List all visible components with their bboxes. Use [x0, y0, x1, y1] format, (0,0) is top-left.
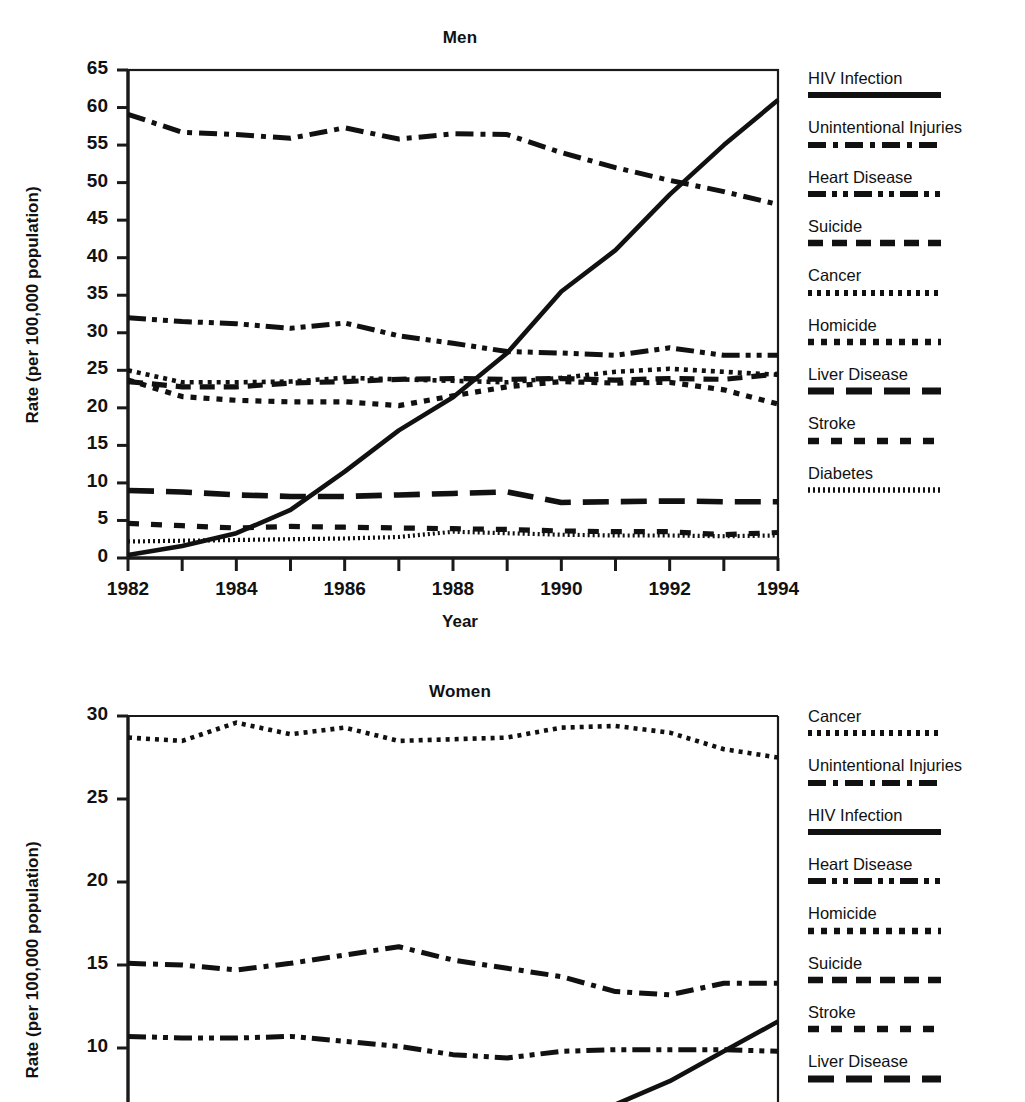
legend-item-label: HIV Infection [808, 807, 1023, 824]
legend-item-label: Liver Disease [808, 366, 1023, 383]
y-tick-label: 35 [48, 282, 108, 304]
legend-item-hiv-infection[interactable]: HIV Infection [808, 807, 1023, 837]
legend-item-label: Stroke [808, 1004, 1023, 1021]
legend-item-liver-disease[interactable]: Liver Disease [808, 366, 1023, 396]
legend-item-homicide[interactable]: Homicide [808, 317, 1023, 347]
legend-item-heart-disease[interactable]: Heart Disease [808, 169, 1023, 199]
legend-swatch [808, 1074, 1023, 1084]
legend-item-suicide[interactable]: Suicide [808, 955, 1023, 985]
y-tick-label: 20 [48, 869, 108, 891]
y-tick-label: 5 [48, 507, 108, 529]
legend-swatch [808, 337, 1023, 347]
x-tick-label: 1988 [413, 578, 493, 600]
y-tick-label: 45 [48, 207, 108, 229]
y-tick-label: 15 [48, 432, 108, 454]
series-line-heart-disease [128, 318, 778, 356]
series-line-liver-disease [128, 490, 778, 502]
legend-swatch [808, 90, 1023, 100]
legend-swatch [808, 926, 1023, 936]
y-tick-label: 25 [48, 357, 108, 379]
series-line-unintentional-injuries [128, 114, 778, 204]
legend-swatch [808, 728, 1023, 738]
y-tick-label: 60 [48, 95, 108, 117]
legend-swatch [808, 975, 1023, 985]
legend-women: CancerUnintentional InjuriesHIV Infectio… [808, 708, 1023, 1102]
series-line-suicide [128, 374, 778, 387]
legend-item-label: Heart Disease [808, 856, 1023, 873]
legend-item-homicide[interactable]: Homicide [808, 905, 1023, 935]
legend-swatch [808, 827, 1023, 837]
legend-item-hiv-infection[interactable]: HIV Infection [808, 70, 1023, 100]
series-line-homicide [128, 380, 778, 406]
legend-item-label: Stroke [808, 415, 1023, 432]
legend-men: HIV InfectionUnintentional InjuriesHeart… [808, 70, 1023, 514]
legend-item-label: HIV Infection [808, 70, 1023, 87]
x-tick-label: 1990 [521, 578, 601, 600]
legend-swatch [808, 288, 1023, 298]
series-line-cancer [128, 723, 778, 758]
series-line-hiv-infection [128, 100, 778, 555]
legend-swatch [808, 436, 1023, 446]
legend-item-cancer[interactable]: Cancer [808, 708, 1023, 738]
x-tick-label: 1994 [738, 578, 818, 600]
legend-item-label: Unintentional Injuries [808, 757, 1023, 774]
legend-item-label: Cancer [808, 708, 1023, 725]
legend-item-label: Heart Disease [808, 169, 1023, 186]
chart-panel-men: Men Rate (per 100,000 population) Year 0… [0, 0, 1025, 660]
legend-swatch [808, 485, 1023, 495]
x-tick-label: 1986 [305, 578, 385, 600]
y-tick-label: 10 [48, 470, 108, 492]
legend-item-label: Suicide [808, 218, 1023, 235]
legend-swatch [808, 778, 1023, 788]
y-tick-label: 55 [48, 132, 108, 154]
y-tick-label: 40 [48, 245, 108, 267]
series-line-unintentional-injuries [128, 947, 778, 995]
legend-item-diabetes[interactable]: Diabetes [808, 465, 1023, 495]
legend-item-unintentional-injuries[interactable]: Unintentional Injuries [808, 757, 1023, 787]
legend-swatch [808, 876, 1023, 886]
legend-swatch [808, 140, 1023, 150]
legend-swatch [808, 386, 1023, 396]
legend-item-unintentional-injuries[interactable]: Unintentional Injuries [808, 119, 1023, 149]
y-tick-label: 20 [48, 395, 108, 417]
legend-item-label: Cancer [808, 267, 1023, 284]
legend-item-heart-disease[interactable]: Heart Disease [808, 856, 1023, 886]
legend-item-stroke[interactable]: Stroke [808, 1004, 1023, 1034]
y-tick-label: 30 [48, 320, 108, 342]
legend-item-cancer[interactable]: Cancer [808, 267, 1023, 297]
legend-item-label: Diabetes [808, 465, 1023, 482]
y-tick-label: 50 [48, 170, 108, 192]
legend-swatch [808, 1024, 1023, 1034]
series-line-heart-disease [128, 1036, 778, 1058]
y-tick-label: 30 [48, 703, 108, 725]
x-tick-label: 1992 [630, 578, 710, 600]
y-tick-label: 15 [48, 952, 108, 974]
y-tick-label: 25 [48, 786, 108, 808]
chart-panel-women: Women Rate (per 100,000 population) Canc… [0, 660, 1025, 1102]
series-line-hiv-infection [128, 1021, 778, 1102]
x-tick-label: 1982 [88, 578, 168, 600]
legend-item-liver-disease[interactable]: Liver Disease [808, 1053, 1023, 1083]
x-tick-label: 1984 [196, 578, 276, 600]
legend-item-label: Homicide [808, 905, 1023, 922]
legend-item-label: Liver Disease [808, 1053, 1023, 1070]
y-tick-label: 65 [48, 57, 108, 79]
legend-item-stroke[interactable]: Stroke [808, 415, 1023, 445]
figure-root: Men Rate (per 100,000 population) Year 0… [0, 0, 1025, 1102]
legend-item-label: Homicide [808, 317, 1023, 334]
y-tick-label: 10 [48, 1035, 108, 1057]
legend-item-label: Suicide [808, 955, 1023, 972]
legend-item-suicide[interactable]: Suicide [808, 218, 1023, 248]
legend-swatch [808, 238, 1023, 248]
legend-swatch [808, 189, 1023, 199]
legend-item-label: Unintentional Injuries [808, 119, 1023, 136]
y-tick-label: 0 [48, 545, 108, 567]
